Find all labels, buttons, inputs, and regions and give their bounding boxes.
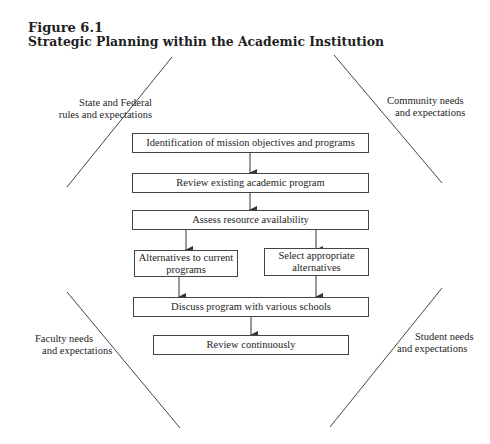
step-label: Review existing academic program bbox=[176, 177, 324, 189]
step-label: Review continuously bbox=[207, 339, 296, 351]
step-label: alternatives bbox=[292, 262, 340, 274]
context-line: and expectations bbox=[395, 107, 465, 119]
diagonal-top-right bbox=[334, 55, 442, 183]
context-label-faculty: Faculty needs and expectations bbox=[35, 333, 112, 357]
context-line: Community needs bbox=[387, 95, 465, 107]
step-label: Assess resource availability bbox=[192, 214, 309, 226]
context-line: and expectations bbox=[397, 343, 474, 355]
context-label-community: Community needs and expectations bbox=[387, 95, 465, 119]
step-discuss-program: Discuss program with various schools bbox=[133, 297, 369, 317]
step-identify-mission: Identification of mission objectives and… bbox=[132, 133, 369, 153]
step-label: Identification of mission objectives and… bbox=[146, 137, 355, 149]
context-line: Student needs bbox=[415, 331, 474, 343]
step-label: Alternatives to current bbox=[139, 252, 233, 264]
step-alternatives: Alternatives to current programs bbox=[134, 250, 238, 277]
step-assess-resources: Assess resource availability bbox=[132, 210, 369, 230]
context-line: and expectations bbox=[42, 345, 112, 357]
context-label-state-federal: State and Federal rules and expectations bbox=[40, 97, 152, 121]
context-label-student: Student needs and expectations bbox=[397, 331, 474, 355]
step-label: Discuss program with various schools bbox=[171, 301, 331, 313]
step-review-existing-program: Review existing academic program bbox=[132, 173, 369, 193]
step-label: Select appropriate bbox=[278, 250, 354, 262]
diagonal-top-left bbox=[67, 57, 172, 187]
step-label: programs bbox=[166, 264, 206, 276]
step-review-continuously: Review continuously bbox=[153, 335, 349, 355]
context-line: rules and expectations bbox=[20, 109, 152, 121]
context-line: State and Federal bbox=[40, 97, 152, 109]
step-select-alternatives: Select appropriate alternatives bbox=[264, 248, 369, 276]
context-line: Faculty needs bbox=[35, 333, 112, 345]
